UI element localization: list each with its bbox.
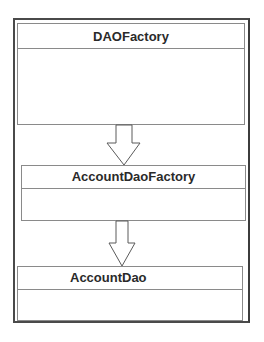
class-body-accountdao bbox=[18, 290, 242, 320]
class-box-accountdao: AccountDao bbox=[17, 266, 243, 321]
class-name-accountdao: AccountDao bbox=[18, 267, 242, 290]
